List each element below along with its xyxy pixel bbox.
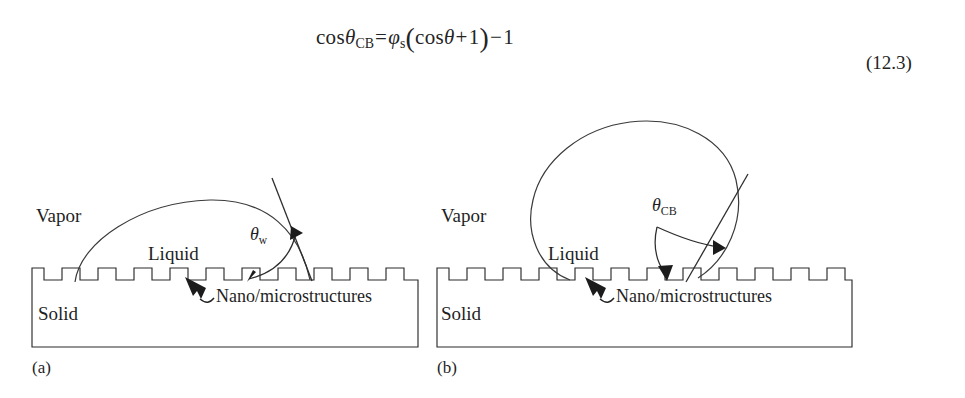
solid-label-b: Solid (441, 303, 482, 324)
equation-row: cosθCB=φs(cosθ+1)−1 (12.3) (0, 0, 965, 90)
panel-caption-a: (a) (32, 358, 51, 377)
equation-number: (12.3) (866, 52, 912, 74)
theta-symbol-lhs: θ (345, 25, 356, 49)
theta-symbol-inner: θ (444, 25, 455, 49)
cos-function-inner: cos (415, 25, 444, 49)
panel-caption-b: (b) (437, 358, 457, 377)
liquid-label-b: Liquid (548, 243, 599, 264)
equation-expression: cosθCB=φs(cosθ+1)−1 (0, 22, 830, 54)
theta-subscript-cb-label: CB (661, 204, 677, 218)
contact-angle-label-a: θw (250, 224, 268, 246)
panel-a-wenzel: θw Vapor Liquid Solid Nano/microstructur… (0, 92, 430, 398)
callout-leader-a (200, 298, 214, 302)
open-paren: ( (405, 22, 415, 53)
droplet-outline-a (75, 200, 310, 282)
callout-label-b: Nano/microstructures (616, 286, 772, 306)
solid-label-a: Solid (38, 303, 79, 324)
callout-leader-b (600, 298, 614, 302)
minus-sign: − (489, 25, 503, 49)
contact-angle-arc-b (657, 227, 719, 247)
close-paren: ) (480, 22, 490, 53)
substrate-outline-b (437, 268, 852, 347)
contact-angle-label-b: θCB (652, 195, 677, 218)
substrate-outline-a (32, 268, 418, 347)
cos-function-lhs: cos (316, 25, 345, 49)
theta-glyph-b: θ (652, 195, 661, 215)
contact-angle-arrowhead-upper-a (290, 226, 303, 240)
figure-container: cosθCB=φs(cosθ+1)−1 (12.3) θw Vapor Liqu… (0, 0, 965, 398)
vapor-label-a: Vapor (36, 205, 82, 226)
plus-sign: + (455, 25, 469, 49)
equals-sign: = (374, 25, 388, 49)
theta-subscript-w: w (259, 234, 268, 246)
one-trailing: 1 (503, 25, 514, 49)
callout-label-a: Nano/microstructures (216, 286, 372, 306)
phi-symbol: φ (388, 25, 400, 49)
vapor-label-b: Vapor (441, 205, 487, 226)
contact-angle-arrowhead-lower-a (247, 270, 256, 282)
panel-b-cassie-baxter: θCB Vapor Liquid Solid Nano/microstructu… (430, 92, 965, 398)
one-inner: 1 (469, 25, 480, 49)
theta-glyph-a: θ (250, 224, 259, 244)
contact-angle-arc-down-b (655, 227, 664, 272)
theta-subscript-cb: CB (356, 36, 375, 51)
tangent-line-b (686, 174, 748, 282)
liquid-label-a: Liquid (148, 243, 199, 264)
